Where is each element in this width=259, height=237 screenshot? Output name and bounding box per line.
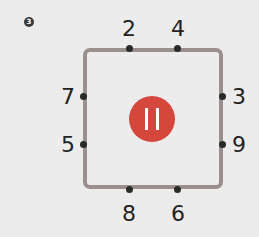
dot-bottom-right: [174, 186, 181, 193]
digit-one-bar-left: [145, 108, 148, 130]
label-top-left: 2: [119, 18, 139, 40]
dot-top-right: [174, 45, 181, 52]
label-left-upper: 7: [58, 86, 78, 108]
problem-number-badge: 3: [24, 17, 34, 27]
dot-bottom-left: [126, 186, 133, 193]
label-right-lower: 9: [229, 134, 249, 156]
center-circle-eleven: [129, 96, 175, 142]
label-bottom-right: 6: [168, 203, 188, 225]
label-left-lower: 5: [58, 134, 78, 156]
label-top-right: 4: [168, 18, 188, 40]
label-bottom-left: 8: [119, 203, 139, 225]
dot-top-left: [126, 45, 133, 52]
label-right-upper: 3: [229, 86, 249, 108]
digit-one-bar-right: [156, 108, 159, 130]
dot-left-lower: [80, 141, 87, 148]
dot-right-upper: [219, 93, 226, 100]
dot-left-upper: [80, 93, 87, 100]
dot-right-lower: [219, 141, 226, 148]
